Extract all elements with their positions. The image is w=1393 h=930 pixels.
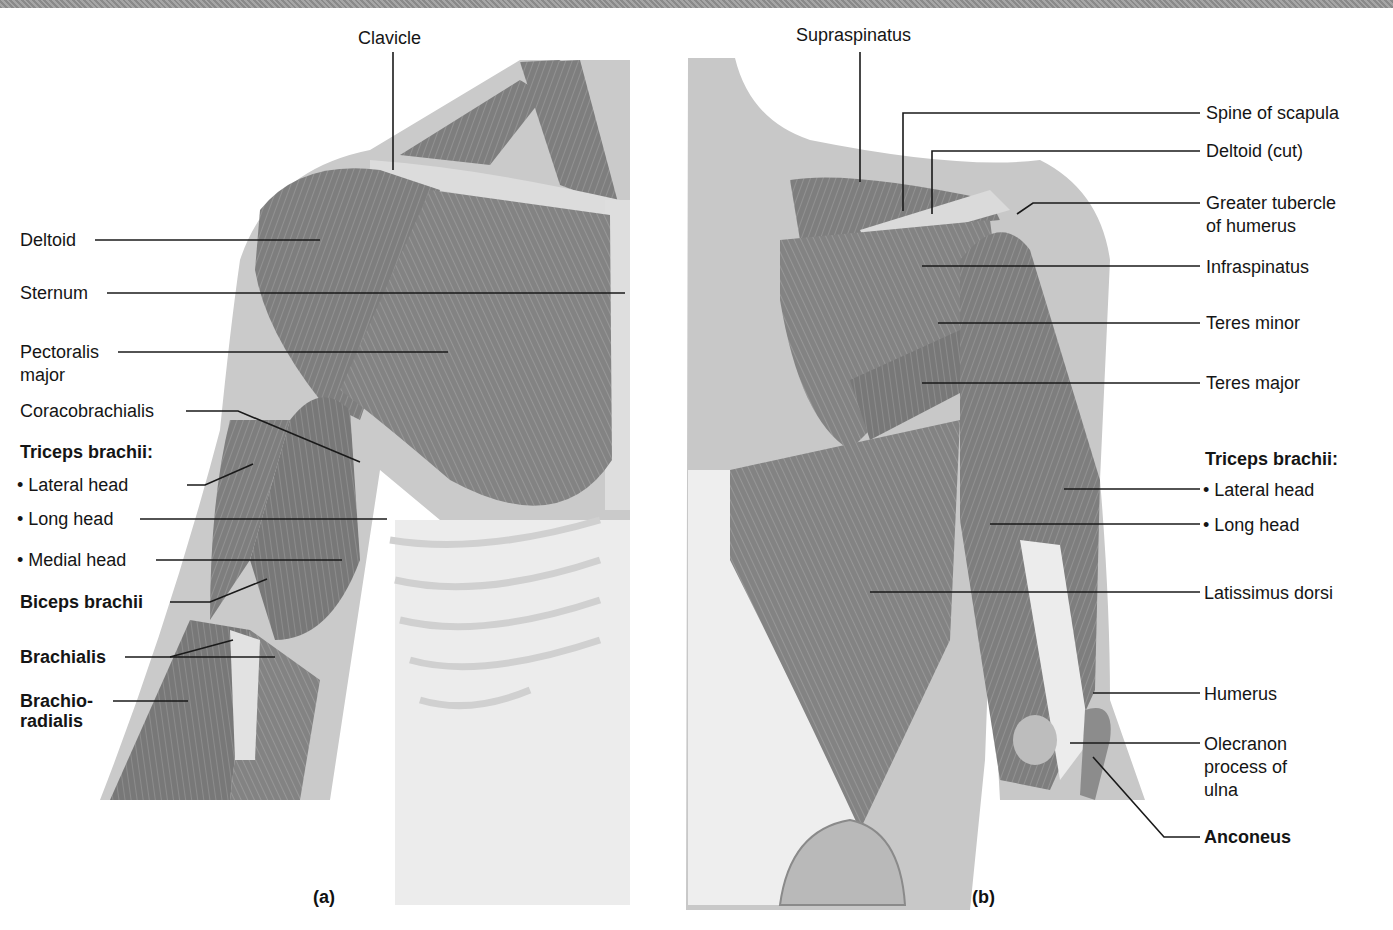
- label-latissimus-dorsi: Latissimus dorsi: [1204, 582, 1333, 605]
- panel-label-a: (a): [313, 887, 335, 908]
- label-lateral-head-a: • Lateral head: [17, 474, 128, 497]
- label-infraspinatus: Infraspinatus: [1206, 256, 1309, 279]
- panel-label-b: (b): [972, 887, 995, 908]
- label-teres-major: Teres major: [1206, 372, 1300, 395]
- label-deltoid-cut: Deltoid (cut): [1206, 140, 1303, 163]
- label-long-head-a: • Long head: [17, 508, 113, 531]
- label-long-head-b: • Long head: [1203, 514, 1299, 537]
- label-brachialis: Brachialis: [20, 646, 106, 669]
- label-olecranon-line3: ulna: [1204, 779, 1238, 802]
- label-supraspinatus: Supraspinatus: [796, 24, 911, 47]
- posterior-view-illustration: [686, 58, 1145, 910]
- label-biceps-brachii: Biceps brachii: [20, 591, 143, 614]
- label-triceps-brachii-header-a: Triceps brachii:: [20, 441, 153, 464]
- label-sternum: Sternum: [20, 282, 88, 305]
- label-greater-tubercle-line1: Greater tubercle: [1206, 192, 1336, 215]
- label-spine-of-scapula: Spine of scapula: [1206, 102, 1339, 125]
- label-lateral-head-b: • Lateral head: [1203, 479, 1314, 502]
- label-humerus: Humerus: [1204, 683, 1277, 706]
- anatomy-illustration: [0, 0, 1393, 930]
- label-olecranon-line2: process of: [1204, 756, 1287, 779]
- label-medial-head: • Medial head: [17, 549, 126, 572]
- label-pectoralis-major-line2: major: [20, 364, 65, 387]
- anterior-view-illustration: [100, 60, 630, 905]
- label-pectoralis-major-line1: Pectoralis: [20, 341, 99, 364]
- label-coracobrachialis: Coracobrachialis: [20, 400, 154, 423]
- label-brachioradialis-line2: radialis: [20, 710, 83, 733]
- label-triceps-brachii-header-b: Triceps brachii:: [1205, 448, 1338, 471]
- label-olecranon-line1: Olecranon: [1204, 733, 1287, 756]
- label-deltoid: Deltoid: [20, 229, 76, 252]
- label-teres-minor: Teres minor: [1206, 312, 1300, 335]
- label-clavicle: Clavicle: [358, 27, 421, 50]
- label-greater-tubercle-line2: of humerus: [1206, 215, 1296, 238]
- label-anconeus: Anconeus: [1204, 826, 1291, 849]
